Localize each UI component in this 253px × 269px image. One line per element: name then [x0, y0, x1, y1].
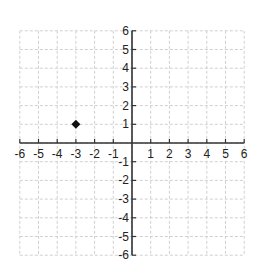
x-tick-label: -4 — [52, 147, 63, 161]
y-tick-label: 6 — [122, 24, 129, 38]
x-axis-tick-labels: -6-5-4-3-2-1123456 — [14, 147, 247, 161]
y-tick-label: 3 — [122, 80, 129, 94]
y-tick-label: -2 — [118, 173, 129, 187]
x-tick-label: -6 — [14, 147, 25, 161]
coordinate-plane: -6-5-4-3-2-1123456 654321-1-2-3-4-5-6 — [0, 0, 253, 269]
x-tick-label: -3 — [71, 147, 82, 161]
y-tick-label: 1 — [122, 117, 129, 131]
y-tick-label: 2 — [122, 99, 129, 113]
axes — [20, 31, 244, 255]
y-tick-label: -1 — [118, 155, 129, 169]
x-tick-label: 5 — [222, 147, 229, 161]
x-tick-label: -5 — [33, 147, 44, 161]
x-tick-label: 4 — [203, 147, 210, 161]
x-tick-label: -1 — [108, 147, 119, 161]
y-tick-label: -5 — [118, 230, 129, 244]
y-tick-label: -3 — [118, 192, 129, 206]
x-tick-label: 3 — [185, 147, 192, 161]
x-tick-label: 1 — [147, 147, 154, 161]
y-tick-label: -6 — [118, 248, 129, 262]
data-point-diamond-icon — [71, 120, 80, 129]
data-points — [71, 120, 80, 129]
x-tick-label: -2 — [89, 147, 100, 161]
y-tick-label: 4 — [122, 61, 129, 75]
y-tick-label: 5 — [122, 43, 129, 57]
y-tick-label: -4 — [118, 211, 129, 225]
x-tick-label: 6 — [241, 147, 248, 161]
x-tick-label: 2 — [166, 147, 173, 161]
